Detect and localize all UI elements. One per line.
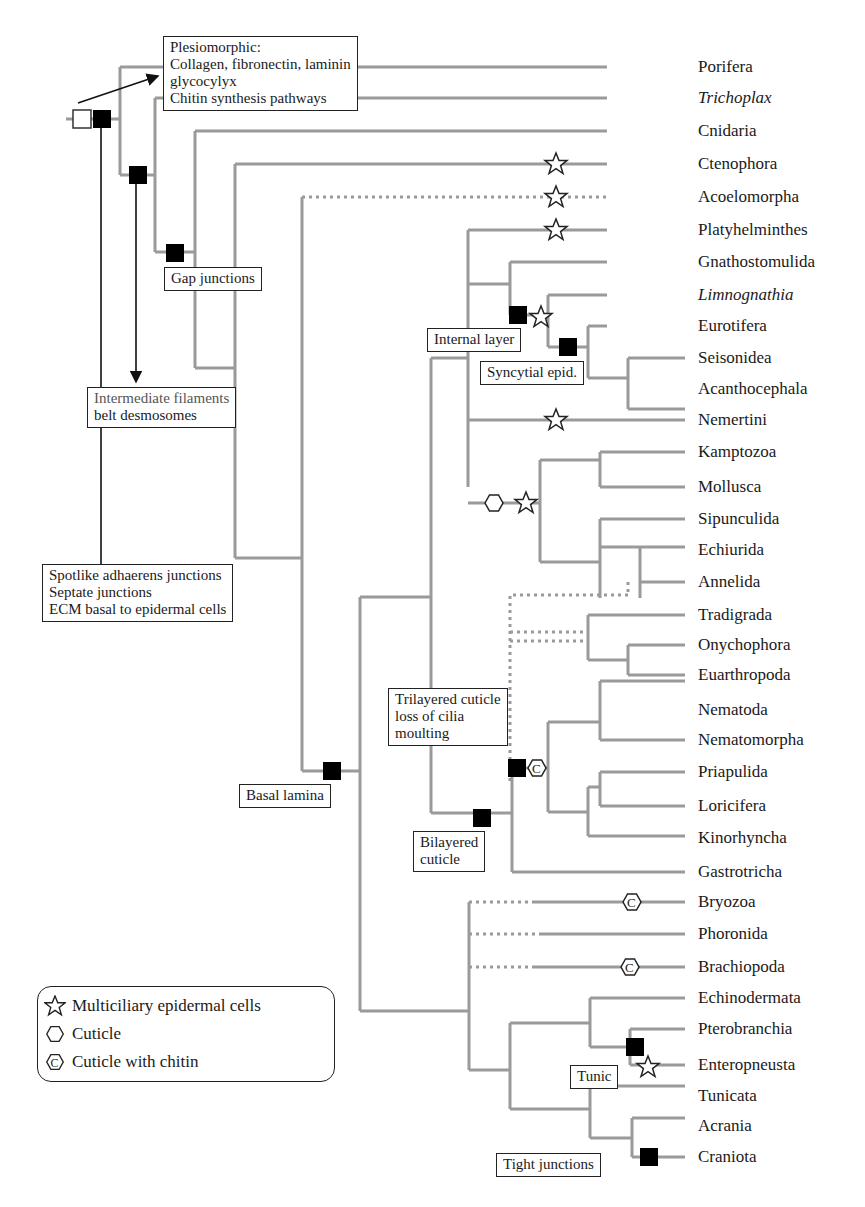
tight-junctions-box: Tight junctions [496, 1153, 601, 1177]
tight-junctions-marker [640, 1148, 658, 1166]
box-line: Basal lamina [246, 787, 324, 804]
legend: Multiciliary epidermal cells Cuticle C C… [37, 986, 335, 1082]
legend-label: Multiciliary epidermal cells [72, 996, 261, 1016]
taxon-label: Echinodermata [698, 989, 801, 1006]
taxon-label: Seisonidea [698, 349, 772, 366]
box-line: Syncytial epid. [487, 364, 577, 381]
hexagon-c-icon: C [44, 1051, 66, 1073]
taxon-label: Enteropneusta [698, 1056, 795, 1073]
box-line: Tunic [577, 1068, 611, 1085]
taxon-label: Annelida [698, 573, 760, 590]
tunic-marker [626, 1038, 644, 1056]
taxon-label: Acoelomorpha [698, 188, 799, 205]
star-icon [44, 995, 66, 1017]
spotlike-junctions-box: Spotlike adhaerens junctions Septate jun… [42, 564, 233, 622]
taxon-label: Sipunculida [698, 510, 779, 527]
taxon-label: Trichoplax [698, 89, 772, 106]
taxon-label: Priapulida [698, 763, 768, 780]
hexagon-c-icon: C [528, 760, 546, 776]
legend-label: Cuticle with chitin [72, 1052, 199, 1072]
box-line: glycocylyx [170, 73, 351, 90]
gap-junctions-box: Gap junctions [164, 267, 262, 291]
taxon-label: Pterobranchia [698, 1020, 792, 1037]
legend-item-cuticle: Cuticle [44, 1023, 121, 1045]
hexagon-c-icon: C [621, 959, 639, 975]
trilayered-marker [508, 759, 526, 777]
legend-label: Cuticle [72, 1024, 121, 1044]
svg-text:C: C [627, 895, 636, 910]
box-line: Trilayered cuticle [395, 691, 501, 708]
basal-lamina-marker [323, 762, 341, 780]
svg-text:C: C [625, 960, 634, 975]
taxon-label: Limnognathia [698, 286, 793, 303]
syncytial-marker [559, 338, 577, 356]
taxon-label: Euarthropoda [698, 666, 791, 683]
hexagon-c-icon: C [623, 894, 641, 910]
legend-item-cuticle-chitin: C Cuticle with chitin [44, 1051, 199, 1073]
plesiomorphic-box: Plesiomorphic: Collagen, fibronectin, la… [163, 36, 358, 111]
gap-junctions-marker [166, 244, 184, 262]
taxon-label: Tunicata [698, 1087, 757, 1104]
hexagon-icon [44, 1023, 66, 1045]
box-line: loss of cilia [395, 708, 501, 725]
taxon-label: Bryozoa [698, 893, 756, 910]
star-icon [545, 153, 567, 174]
taxon-label: Brachiopoda [698, 958, 785, 975]
trilayered-cuticle-box: Trilayered cuticle loss of cilia moultin… [388, 688, 508, 746]
box-line: moulting [395, 725, 501, 742]
box-line: cuticle [420, 851, 478, 868]
taxon-label: Porifera [698, 58, 753, 75]
taxon-label: Nematoda [698, 701, 768, 718]
taxon-label: Gastrotricha [698, 863, 782, 880]
taxon-label: Echiurida [698, 541, 764, 558]
star-icon [545, 219, 567, 240]
box-line: ECM basal to epidermal cells [49, 601, 226, 618]
syncytial-epid-box: Syncytial epid. [480, 361, 584, 385]
box-line: Gap junctions [171, 270, 255, 287]
bilayered-cuticle-box: Bilayered cuticle [413, 831, 485, 872]
internal-layer-box: Internal layer [427, 328, 521, 352]
bilayered-marker [473, 809, 491, 827]
box-line: Internal layer [434, 331, 514, 348]
taxon-label: Kinorhyncha [698, 829, 787, 846]
taxon-label: Cnidaria [698, 122, 757, 139]
box-line: belt desmosomes [94, 407, 229, 424]
box-line: Chitin synthesis pathways [170, 90, 351, 107]
basal-lamina-box: Basal lamina [239, 784, 331, 808]
taxon-label: Ctenophora [698, 155, 777, 172]
taxon-label: Craniota [698, 1148, 757, 1165]
svg-text:C: C [50, 1056, 58, 1070]
taxon-label: Platyhelminthes [698, 221, 808, 238]
star-icon [637, 1056, 659, 1077]
box-line: Intermediate filaments [94, 390, 229, 407]
taxon-label: Phoronida [698, 925, 768, 942]
star-icon [515, 492, 537, 513]
taxon-label: Acrania [698, 1117, 752, 1134]
taxon-label: Tradigrada [698, 606, 772, 623]
legend-item-multiciliary: Multiciliary epidermal cells [44, 995, 261, 1017]
internal-layer-marker [509, 306, 527, 324]
box-line: Collagen, fibronectin, laminin [170, 56, 351, 73]
taxon-label: Kamptozoa [698, 443, 776, 460]
annotation-arrows [78, 76, 158, 584]
tunic-box: Tunic [570, 1065, 618, 1089]
taxon-label: Onychophora [698, 636, 791, 653]
root-marker [93, 110, 111, 128]
taxon-label: Nematomorpha [698, 731, 804, 748]
taxon-label: Acanthocephala [698, 380, 808, 397]
intermediate-filaments-marker [129, 166, 147, 184]
plesiomorphic-marker [73, 110, 91, 128]
taxon-label: Loricifera [698, 797, 766, 814]
hexagon-icon [485, 495, 503, 511]
box-line: Bilayered [420, 834, 478, 851]
taxon-label: Mollusca [698, 478, 761, 495]
taxon-label: Eurotifera [698, 317, 767, 334]
box-line: Tight junctions [503, 1156, 594, 1173]
box-line: Septate junctions [49, 584, 226, 601]
svg-text:C: C [532, 761, 541, 776]
box-line: Plesiomorphic: [170, 39, 351, 56]
box-line: Spotlike adhaerens junctions [49, 567, 226, 584]
star-icon [545, 409, 567, 430]
taxon-label: Nemertini [698, 411, 767, 428]
intermediate-filaments-box: Intermediate filaments belt desmosomes [87, 387, 236, 428]
